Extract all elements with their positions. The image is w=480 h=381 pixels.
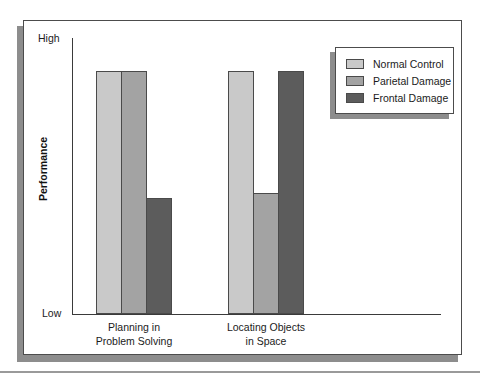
bar-parietal-damage-locating <box>253 193 279 314</box>
y-axis-tick-label-high: High <box>38 32 60 44</box>
category-label-line2: in Space <box>201 335 331 349</box>
bar-chart-plot-area: High Low Performance Planning in Problem… <box>24 21 463 356</box>
legend-swatch-normal-control-icon <box>346 59 364 69</box>
bar-normal-control-planning <box>96 71 122 314</box>
x-axis-line <box>72 314 441 315</box>
category-label-line1: Locating Objects <box>201 321 331 335</box>
page-bottom-rule <box>0 371 480 373</box>
legend-item-parietal-damage: Parietal Damage <box>346 72 453 89</box>
x-axis-category-label-locating: Locating Objects in Space <box>201 321 331 348</box>
y-axis-title: Performance <box>37 121 49 217</box>
y-axis-line <box>72 38 73 315</box>
legend-label-parietal-damage: Parietal Damage <box>373 75 451 87</box>
category-label-line2: Problem Solving <box>69 335 199 349</box>
legend-label-normal-control: Normal Control <box>373 58 444 70</box>
bar-frontal-damage-locating <box>278 71 304 314</box>
chart-legend: Normal Control Parietal Damage Frontal D… <box>335 47 454 114</box>
figure-frame: High Low Performance Planning in Problem… <box>23 20 462 355</box>
bar-normal-control-locating <box>228 71 254 314</box>
bar-frontal-damage-planning <box>146 198 172 314</box>
legend-item-normal-control: Normal Control <box>346 55 453 72</box>
legend-swatch-frontal-damage-icon <box>346 93 364 103</box>
y-axis-tick-label-low: Low <box>42 307 61 319</box>
x-axis-category-label-planning: Planning in Problem Solving <box>69 321 199 348</box>
legend-swatch-parietal-damage-icon <box>346 76 364 86</box>
bar-parietal-damage-planning <box>121 71 147 314</box>
legend-label-frontal-damage: Frontal Damage <box>373 92 448 104</box>
category-label-line1: Planning in <box>69 321 199 335</box>
legend-item-frontal-damage: Frontal Damage <box>346 89 453 106</box>
